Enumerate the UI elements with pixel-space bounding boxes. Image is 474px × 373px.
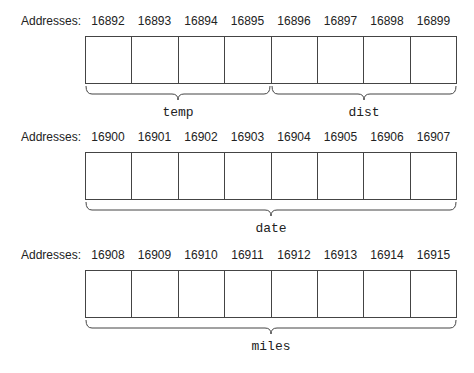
memory-cell [132,271,178,317]
address-value: 16897 [318,14,364,28]
address-value: 16895 [225,14,271,28]
address-value: 16915 [411,248,457,262]
memory-cell [411,153,456,199]
variable-name: dist [324,105,404,120]
memory-block [85,152,457,200]
variable-name: date [231,221,311,236]
memory-cell [364,271,410,317]
address-value: 16894 [178,14,224,28]
address-value: 16904 [271,130,317,144]
address-value: 16899 [411,14,457,28]
address-value: 16907 [411,130,457,144]
memory-cell [225,153,271,199]
memory-cell [411,37,456,83]
address-value: 16913 [318,248,364,262]
brace-icon [0,320,474,340]
memory-cell [132,37,178,83]
variable-name: miles [231,339,311,354]
memory-cell [86,271,132,317]
memory-cell [318,37,364,83]
memory-cell [272,37,318,83]
address-value: 16892 [85,14,131,28]
memory-cell [364,37,410,83]
brace-icon [0,202,474,222]
address-value: 16900 [85,130,131,144]
address-value: 16898 [364,14,410,28]
address-value: 16911 [225,248,271,262]
memory-cell [132,153,178,199]
address-value: 16905 [318,130,364,144]
address-value: 16906 [364,130,410,144]
memory-cell [272,153,318,199]
memory-cell [411,271,456,317]
address-value: 16914 [364,248,410,262]
variable-name: temp [138,105,218,120]
address-value: 16896 [271,14,317,28]
memory-cell [86,37,132,83]
address-value: 16912 [271,248,317,262]
memory-cell [364,153,410,199]
address-value: 16902 [178,130,224,144]
addresses-label: Addresses: [21,14,81,28]
address-value: 16908 [85,248,131,262]
address-value: 16909 [132,248,178,262]
brace-icon [0,86,474,106]
address-value: 16893 [132,14,178,28]
memory-cell [86,153,132,199]
memory-cell [318,153,364,199]
memory-cell [225,37,271,83]
memory-cell [272,271,318,317]
memory-block [85,270,457,318]
memory-cell [225,271,271,317]
addresses-label: Addresses: [21,130,81,144]
addresses-label: Addresses: [21,248,81,262]
address-value: 16903 [225,130,271,144]
memory-cell [179,37,225,83]
memory-cell [318,271,364,317]
address-value: 16910 [178,248,224,262]
address-value: 16901 [132,130,178,144]
memory-cell [179,271,225,317]
memory-block [85,36,457,84]
memory-cell [179,153,225,199]
